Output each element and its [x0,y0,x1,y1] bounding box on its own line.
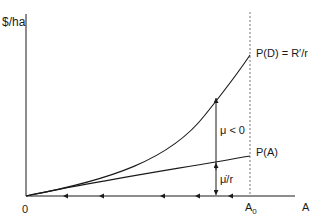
gap-upper-label: μ < 0 [220,125,245,136]
origin-label: 0 [22,204,28,215]
a0-label: A0 [245,202,257,216]
x-axis-label: A [302,202,309,213]
a0-label-sub: 0 [252,207,256,216]
curve-pd-label: P(D) = R′/r [256,48,308,59]
curve-pa-label: P(A) [256,147,278,158]
gap-lower-label: μ̇/r [220,174,233,185]
diagram-canvas [0,0,327,221]
y-axis-label: $/ha [2,16,25,28]
